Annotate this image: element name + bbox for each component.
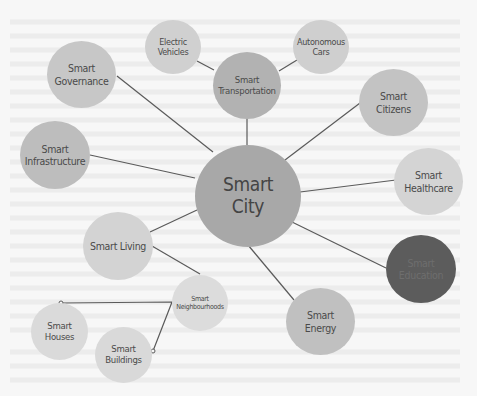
node-label: Smart Energy (305, 309, 336, 333)
node-smart-citizens[interactable]: Smart Citizens (359, 69, 428, 136)
node-electric-vehicles[interactable]: Electric Vehicles (145, 20, 201, 74)
node-smart-city[interactable]: Smart City (195, 145, 301, 247)
node-autonomous-cars[interactable]: Autonomous Cars (293, 20, 349, 74)
node-smart-living[interactable]: Smart Living (83, 212, 153, 280)
node-smart-education[interactable]: Smart Education (386, 235, 456, 303)
node-label: Autonomous Cars (297, 37, 345, 58)
node-smart-transportation[interactable]: Smart Transportation (213, 52, 281, 119)
node-label: Smart Citizens (376, 90, 411, 114)
node-label: Smart Governance (55, 62, 109, 86)
node-label: Smart Healthcare (404, 169, 452, 193)
node-smart-healthcare[interactable]: Smart Healthcare (394, 148, 463, 215)
node-smart-infrastructure[interactable]: Smart Infrastructure (20, 121, 90, 189)
node-label: Smart Education (399, 257, 443, 281)
node-label: Smart Transportation (218, 75, 275, 97)
node-smart-buildings[interactable]: Smart Buildings (95, 327, 152, 383)
node-smart-governance[interactable]: Smart Governance (47, 41, 116, 108)
node-smart-houses[interactable]: Smart Houses (31, 303, 88, 360)
node-label: Smart Infrastructure (25, 143, 85, 167)
node-label: Smart Living (90, 240, 146, 252)
node-smart-energy[interactable]: Smart Energy (286, 288, 355, 355)
node-label: Smart City (223, 174, 273, 218)
node-label: Smart Houses (45, 321, 74, 343)
node-label: Electric Vehicles (158, 37, 189, 58)
node-label: Smart Buildings (105, 344, 141, 366)
node-label: Smart Neighbourhoods (176, 295, 223, 311)
node-smart-neighbourhoods[interactable]: Smart Neighbourhoods (172, 275, 228, 331)
